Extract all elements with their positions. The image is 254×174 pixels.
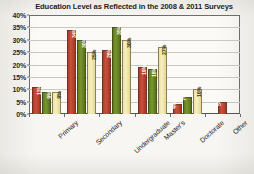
bar-group: 5%: [205, 15, 240, 114]
bar-group: 34%30%25%: [64, 15, 99, 114]
x-axis-tick-mark: [135, 114, 136, 117]
bar-value-label: 7%: [182, 94, 187, 101]
bar[interactable]: 26%: [102, 50, 111, 114]
x-axis-tick-mark: [170, 114, 171, 117]
bar[interactable]: 11%: [32, 87, 41, 114]
bar[interactable]: 4%: [173, 104, 182, 114]
bar-group: 26%35%30%: [99, 15, 134, 114]
bar[interactable]: 5%: [218, 102, 227, 114]
y-axis-tick-label: 20%: [13, 61, 26, 68]
bar[interactable]: 9%: [42, 92, 51, 114]
bar[interactable]: 9%: [52, 92, 61, 114]
y-axis-tick-label: 35%: [13, 24, 26, 31]
bar-value-label: 34%: [72, 28, 77, 38]
bar-value-label: 9%: [57, 91, 62, 98]
x-axis-tick-mark: [99, 114, 100, 117]
x-axis-category-label: Secondary: [94, 119, 123, 146]
y-axis-tick-label: 0%: [16, 111, 26, 118]
plot-area: 40%35%30%25%20%15%10%5%0% 11%9%9%34%30%2…: [29, 15, 240, 114]
y-axis-tick-label: 15%: [13, 73, 26, 80]
x-axis-category-label: Primary: [57, 119, 79, 140]
x-axis-tick-mark: [240, 114, 241, 117]
bar-value-label: 30%: [82, 38, 87, 48]
bar[interactable]: 30%: [122, 40, 131, 114]
bar-series-container: 11%9%9%34%30%25%26%35%30%19%18%27%4%7%10…: [29, 15, 240, 114]
bar-group: 19%18%27%: [135, 15, 170, 114]
x-axis-category-label: Other: [231, 119, 248, 136]
x-axis-tick-mark: [205, 114, 206, 117]
bar-value-label: 5%: [217, 99, 222, 106]
chart-title: Education Level as Reflected in the 2008…: [18, 2, 250, 11]
y-axis-tick-label: 30%: [13, 36, 26, 43]
x-axis-tick-mark: [64, 114, 65, 117]
bar-group: 4%7%10%: [170, 15, 205, 114]
bar-value-label: 30%: [127, 38, 132, 48]
bar-value-label: 25%: [92, 50, 97, 60]
bar[interactable]: 7%: [183, 97, 192, 114]
bar-group: 11%9%9%: [29, 15, 64, 114]
bar[interactable]: 27%: [158, 47, 167, 114]
bar[interactable]: 30%: [77, 40, 86, 114]
bar-value-label: 10%: [197, 87, 202, 97]
bar[interactable]: 10%: [193, 89, 202, 114]
bar[interactable]: 35%: [112, 27, 121, 114]
bar-value-label: 4%: [172, 101, 177, 108]
y-axis-tick-label: 25%: [13, 49, 26, 56]
chart-figure: Education Level as Reflected in the 2008…: [0, 0, 254, 174]
bar[interactable]: 25%: [87, 52, 96, 114]
y-axis-tick-label: 5%: [16, 98, 26, 105]
x-axis-category-label: Doctorate: [199, 119, 226, 144]
bar[interactable]: 34%: [67, 30, 76, 114]
bar[interactable]: 18%: [148, 69, 157, 114]
bar-value-label: 27%: [162, 45, 167, 55]
bar[interactable]: 19%: [138, 67, 147, 114]
bar-value-label: 35%: [117, 25, 122, 35]
y-axis-tick-label: 10%: [13, 86, 26, 93]
y-axis-tick-label: 40%: [13, 12, 26, 19]
x-axis-tick-mark: [29, 114, 30, 117]
